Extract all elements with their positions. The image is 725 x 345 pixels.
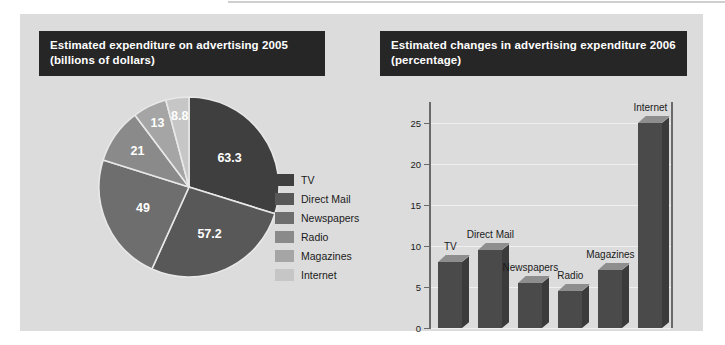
gridline xyxy=(431,205,671,206)
bar-chart-title-line-2: (percentage) xyxy=(391,53,677,68)
bar-side-face xyxy=(462,256,469,328)
bar-chart-graphic: 0510152025TVDirect MailNewspapersRadioMa… xyxy=(411,102,673,328)
bar-category-label: Newspapers xyxy=(503,262,559,273)
legend-label: Direct Mail xyxy=(301,193,351,205)
y-axis-tick xyxy=(424,328,431,329)
y-axis-tick-label: 15 xyxy=(410,199,421,210)
y-axis-tick-label: 0 xyxy=(416,323,421,334)
legend-label: Newspapers xyxy=(301,212,359,224)
pie-slice-value-label: 13 xyxy=(151,116,165,130)
legend-item: Magazines xyxy=(275,247,365,265)
page-top-rule xyxy=(228,1,725,3)
legend-swatch xyxy=(275,193,294,205)
bar-column: Direct Mail xyxy=(478,250,502,328)
y-axis-tick xyxy=(424,164,431,165)
y-axis-tick-label: 10 xyxy=(410,240,421,251)
pie-chart-title-line-2: (billions of dollars) xyxy=(50,53,315,68)
y-axis-tick xyxy=(424,287,431,288)
pie-slice-value-label: 21 xyxy=(131,144,145,158)
legend-item: TV xyxy=(275,171,365,189)
bar-side-face xyxy=(542,277,549,328)
bar-column: Newspapers xyxy=(518,283,542,328)
legend-label: Magazines xyxy=(301,250,352,262)
bar-side-face xyxy=(502,244,509,328)
pie-svg: 63.357.24921138.8 xyxy=(98,96,280,278)
legend-item: Internet xyxy=(275,266,365,284)
bar-front-face xyxy=(558,291,582,328)
bar-category-label: Internet xyxy=(633,102,667,113)
y-axis-tick xyxy=(424,246,431,247)
y-axis-tick-label: 25 xyxy=(410,117,421,128)
y-axis-tick xyxy=(424,123,431,124)
bar-side-face xyxy=(662,117,669,328)
bar-chart-title-bar: Estimated changes in advertising expendi… xyxy=(380,31,687,76)
figure-panel: Estimated expenditure on advertising 200… xyxy=(20,14,703,331)
legend-swatch xyxy=(275,231,294,243)
bar-chart-title-line-1: Estimated changes in advertising expendi… xyxy=(391,38,677,53)
bar-front-face xyxy=(478,250,502,328)
bar-category-label: Direct Mail xyxy=(467,229,514,240)
y-axis-tick-label: 5 xyxy=(416,281,421,292)
pie-chart-legend: TVDirect MailNewspapersRadioMagazinesInt… xyxy=(275,171,365,285)
bar-category-label: Radio xyxy=(557,270,583,281)
legend-swatch xyxy=(275,174,294,186)
legend-item: Direct Mail xyxy=(275,190,365,208)
pie-slice-value-label: 49 xyxy=(136,201,150,215)
bar-chart-block: Estimated changes in advertising expendi… xyxy=(365,14,703,331)
legend-swatch xyxy=(275,250,294,262)
pie-chart-title-line-1: Estimated expenditure on advertising 200… xyxy=(50,38,315,53)
bar-category-label: Magazines xyxy=(586,249,634,260)
bar-front-face xyxy=(638,123,662,328)
bar-front-face xyxy=(438,262,462,328)
legend-item: Radio xyxy=(275,228,365,246)
bar-column: TV xyxy=(438,262,462,328)
pie-chart-graphic: 63.357.24921138.8 xyxy=(98,96,280,278)
bar-chart-plot-area: 0510152025TVDirect MailNewspapersRadioMa… xyxy=(429,102,673,328)
gridline xyxy=(431,246,671,247)
bar-side-face xyxy=(582,285,589,328)
bar-front-face xyxy=(518,283,542,328)
gridline xyxy=(431,123,671,124)
pie-slice-value-label: 63.3 xyxy=(217,151,241,165)
bar-category-label: TV xyxy=(444,241,457,252)
bar-column: Internet xyxy=(638,123,662,328)
legend-item: Newspapers xyxy=(275,209,365,227)
bar-column: Magazines xyxy=(598,270,622,328)
legend-label: Internet xyxy=(301,269,337,281)
pie-slices xyxy=(99,97,279,277)
bar-side-face xyxy=(622,265,629,328)
bar-front-face xyxy=(598,270,622,328)
gridline xyxy=(431,164,671,165)
y-axis-tick-label: 20 xyxy=(410,158,421,169)
bar-column: Radio xyxy=(558,291,582,328)
pie-slice-value-label: 8.8 xyxy=(171,109,188,123)
axis-baseline xyxy=(431,328,671,329)
legend-label: TV xyxy=(301,174,314,186)
legend-swatch xyxy=(275,269,294,281)
legend-label: Radio xyxy=(301,231,328,243)
pie-slice-value-label: 57.2 xyxy=(197,227,221,241)
legend-swatch xyxy=(275,212,294,224)
pie-chart-block: Estimated expenditure on advertising 200… xyxy=(20,14,365,331)
y-axis-tick xyxy=(424,205,431,206)
pie-chart-title-bar: Estimated expenditure on advertising 200… xyxy=(39,31,325,76)
